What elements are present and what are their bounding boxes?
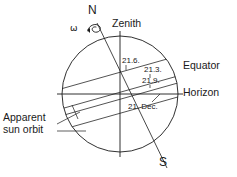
- leader-line-sun-orbit-tick: [72, 105, 78, 119]
- label-date-december-solstice: 21. Dec.: [128, 103, 158, 112]
- label-equator: Equator: [183, 60, 220, 72]
- label-zenith: Zenith: [112, 18, 141, 30]
- label-omega-angular-velocity: ω: [70, 23, 78, 33]
- label-apparent-sun-orbit: Apparent sun orbit: [3, 112, 46, 136]
- sun-orbit-june-solstice: [50, 52, 192, 92]
- leader-line-december: [152, 94, 160, 102]
- label-date-march-equinox: 21.3.: [144, 66, 162, 75]
- label-apparent-sun-orbit-line1: Apparent: [3, 112, 46, 124]
- label-apparent-sun-orbit-line2: sun orbit: [3, 124, 46, 136]
- sun-orbit-line-group: [50, 52, 192, 133]
- label-horizon: Horizon: [183, 87, 219, 99]
- celestial-sphere-diagram: N S Zenith Equator Horizon ω 21.6. 21.3.…: [0, 0, 237, 177]
- label-south: S: [159, 156, 167, 169]
- label-north: N: [88, 4, 97, 17]
- label-date-september-equinox: 21.9.: [142, 77, 160, 86]
- label-date-june-solstice: 21.6.: [122, 57, 140, 66]
- sun-orbit-march-equinox: [50, 72, 192, 112]
- rotation-arrow-icon: [87, 24, 100, 33]
